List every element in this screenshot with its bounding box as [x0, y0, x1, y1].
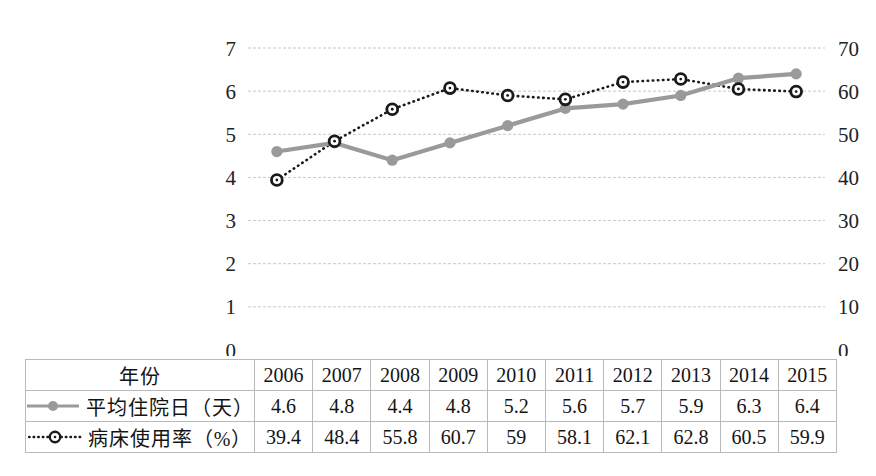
- svg-text:50: 50: [838, 123, 859, 147]
- table-cell: 4.8: [313, 391, 371, 422]
- table-cell: 5.6: [545, 391, 603, 422]
- svg-text:3: 3: [226, 209, 237, 233]
- table-cell: 4.4: [371, 391, 429, 422]
- table-cell: 4.8: [429, 391, 487, 422]
- right-axis-tick-labels: 010203040506070: [838, 37, 859, 357]
- table-header-label: 年份: [119, 361, 161, 390]
- svg-text:30: 30: [838, 209, 859, 233]
- svg-text:70: 70: [838, 37, 859, 61]
- svg-text:7: 7: [226, 37, 237, 61]
- series-bed-usage-rate-line: [277, 79, 796, 180]
- table-cell: 55.8: [371, 422, 429, 453]
- table-row: 平均住院日（天） 4.6 4.8 4.4 4.8 5.2 5.6 5.7 5.9…: [26, 391, 837, 422]
- legend-solid-line-filled-circle-icon: [26, 399, 80, 413]
- table-cell: 5.7: [604, 391, 662, 422]
- svg-text:5: 5: [226, 123, 237, 147]
- table-header-year: 2006: [255, 360, 313, 391]
- table-cell: 62.8: [662, 422, 720, 453]
- table-header-year: 2014: [720, 360, 778, 391]
- table-header-year: 2008: [371, 360, 429, 391]
- table-cell: 48.4: [313, 422, 371, 453]
- left-axis-tick-labels: 01234567: [226, 37, 237, 357]
- svg-text:20: 20: [838, 252, 859, 276]
- svg-text:0: 0: [838, 339, 849, 357]
- series-bed-usage-rate-markers: [271, 74, 801, 186]
- svg-text:10: 10: [838, 295, 859, 319]
- dual-axis-line-chart: 01234567 010203040506070: [0, 0, 876, 356]
- svg-text:0: 0: [226, 339, 237, 357]
- svg-text:1: 1: [226, 295, 237, 319]
- table-cell: 6.4: [778, 391, 836, 422]
- legend-dotted-line-donut-circle-icon: [28, 430, 82, 444]
- table-header-year: 2012: [604, 360, 662, 391]
- table-row-label-rate: 病床使用率（%）: [88, 423, 253, 452]
- table-row-label-days: 平均住院日（天）: [86, 392, 254, 421]
- table-cell: 5.2: [487, 391, 545, 422]
- table-header-year: 2007: [313, 360, 371, 391]
- data-table: 年份 2006 2007 2008 2009 2010 2011 2012 20…: [25, 359, 837, 453]
- table-header-year: 2011: [545, 360, 603, 391]
- table-header-year: 2015: [778, 360, 836, 391]
- svg-text:6: 6: [226, 80, 237, 104]
- chart-canvas: 01234567 010203040506070: [0, 0, 876, 356]
- svg-text:60: 60: [838, 80, 859, 104]
- table-cell: 5.9: [662, 391, 720, 422]
- table-row: 病床使用率（%） 39.4 48.4 55.8 60.7 59 58.1 62.…: [26, 422, 837, 453]
- table-header-year: 2009: [429, 360, 487, 391]
- table-header-year: 2010: [487, 360, 545, 391]
- table-cell: 6.3: [720, 391, 778, 422]
- table-row-label-cell-rate: 病床使用率（%）: [26, 422, 255, 453]
- table-cell: 39.4: [255, 422, 313, 453]
- table-cell: 58.1: [545, 422, 603, 453]
- table-cell: 59.9: [778, 422, 836, 453]
- svg-text:4: 4: [226, 166, 237, 190]
- table-cell: 60.7: [429, 422, 487, 453]
- chart-page: 01234567 010203040506070 年份 2006 2007 20…: [0, 0, 876, 476]
- table-cell: 4.6: [255, 391, 313, 422]
- table-cell: 62.1: [604, 422, 662, 453]
- svg-text:2: 2: [226, 252, 237, 276]
- table-cell: 59: [487, 422, 545, 453]
- table-cell: 60.5: [720, 422, 778, 453]
- table-row-header: 年份 2006 2007 2008 2009 2010 2011 2012 20…: [26, 360, 837, 391]
- table-row-label-cell-days: 平均住院日（天）: [26, 391, 255, 422]
- table-header-label-cell: 年份: [26, 360, 255, 391]
- svg-text:40: 40: [838, 166, 859, 190]
- table-header-year: 2013: [662, 360, 720, 391]
